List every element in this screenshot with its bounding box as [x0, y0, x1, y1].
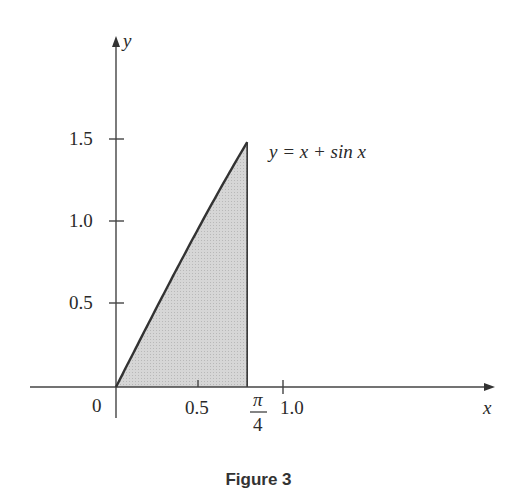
- x-tick-label-1.0: 1.0: [280, 397, 304, 418]
- y-tick-label-0.5: 0.5: [69, 292, 93, 313]
- x-tick-label-pi-denominator: 4: [253, 414, 263, 435]
- y-axis-arrow-icon: [112, 36, 120, 47]
- y-tick-label-1.0: 1.0: [69, 210, 93, 231]
- x-tick-label-pi-numerator: π: [253, 389, 263, 410]
- y-axis-label: y: [121, 30, 132, 51]
- figure-caption: Figure 3: [0, 470, 517, 490]
- y-tick-label-1.5: 1.5: [69, 128, 93, 149]
- x-axis-arrow-icon: [484, 383, 495, 391]
- x-tick-label-0.5: 0.5: [185, 397, 209, 418]
- origin-label: 0: [92, 395, 102, 416]
- chart-figure: y x 0 0.5 π 4 1.0 0.5 1.0 1.5 y = x + si…: [0, 0, 517, 504]
- x-axis-label: x: [482, 397, 492, 418]
- curve-label: y = x + sin x: [267, 141, 366, 162]
